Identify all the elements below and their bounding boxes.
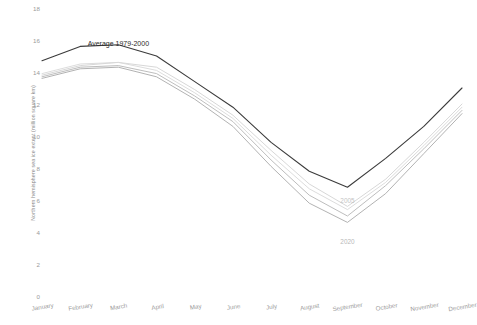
x-tick-october: October (375, 301, 398, 311)
x-tick-march: March (110, 302, 128, 312)
x-tick-april: April (150, 302, 163, 311)
x-tick-september: September (332, 301, 363, 313)
x-tick-january: January (31, 301, 54, 311)
year-2020-label: 2020 (340, 238, 354, 245)
x-tick-february: February (68, 301, 94, 312)
x-tick-june: June (226, 302, 240, 311)
x-tick-december: December (448, 301, 477, 312)
average-label: Average 1979-2000 (88, 40, 149, 47)
x-tick-november: November (410, 301, 439, 312)
x-tick-august: August (300, 301, 320, 311)
year-2005-label: 2005 (340, 197, 354, 204)
x-tick-july: July (266, 302, 278, 311)
x-tick-may: May (189, 302, 202, 311)
